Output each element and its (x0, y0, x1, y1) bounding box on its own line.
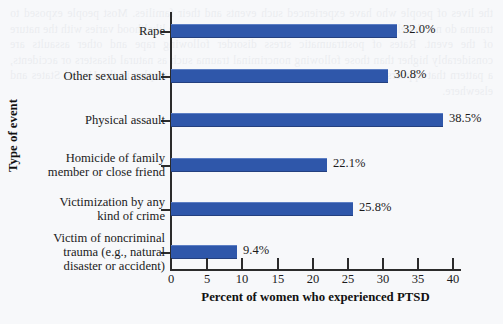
x-tick-label-10: 10 (236, 272, 249, 287)
x-tick-label-15: 15 (272, 272, 285, 287)
category-label-physical-assault: Physical assault (5, 113, 165, 127)
ptsd-bar-chart-figure: the lives of people who have experienced… (0, 0, 503, 324)
category-label-noncriminal-trauma: Victim of noncriminal trauma (e.g., natu… (5, 231, 165, 274)
y-axis-line (170, 12, 172, 270)
x-tick-label-0: 0 (168, 272, 174, 287)
value-label-rape: 32.0% (403, 22, 435, 37)
x-tick-label-40: 40 (447, 272, 460, 287)
x-tick-label-20: 20 (307, 272, 320, 287)
x-axis-line (170, 269, 461, 271)
value-label-noncriminal-trauma: 9.4% (243, 243, 269, 258)
x-tick-15 (277, 258, 279, 269)
value-label-victimization: 25.8% (359, 200, 391, 215)
category-label-homicide: Homicide of family member or close frien… (5, 151, 165, 179)
x-tick-25 (347, 258, 349, 269)
x-tick-label-30: 30 (377, 272, 390, 287)
y-axis-title: Type of event (6, 86, 21, 186)
bar-homicide (171, 158, 327, 172)
bar-rape (171, 24, 397, 38)
value-label-physical-assault: 38.5% (449, 111, 481, 126)
x-tick-10 (241, 258, 243, 269)
bar-victimization (171, 202, 353, 216)
bar-other-sexual-assault (171, 69, 388, 83)
value-label-homicide: 22.1% (333, 156, 365, 171)
plot-area: Rape Other sexual assault Physical assau… (0, 0, 503, 324)
x-tick-20 (312, 258, 314, 269)
bar-physical-assault (171, 113, 443, 127)
x-tick-5 (206, 258, 208, 269)
x-tick-35 (417, 258, 419, 269)
x-tick-label-25: 25 (342, 272, 355, 287)
category-label-victimization: Victimization by any kind of crime (5, 195, 165, 223)
x-tick-30 (382, 258, 384, 269)
bar-noncriminal-trauma (171, 245, 237, 259)
x-axis-title: Percent of women who experienced PTSD (170, 290, 461, 305)
value-label-other-sexual-assault: 30.8% (394, 67, 426, 82)
category-label-rape: Rape (5, 24, 165, 38)
x-tick-0 (170, 258, 172, 269)
x-tick-label-35: 35 (412, 272, 425, 287)
x-tick-40 (452, 258, 454, 269)
x-tick-label-5: 5 (204, 272, 210, 287)
category-label-other-sexual-assault: Other sexual assault (5, 69, 165, 83)
